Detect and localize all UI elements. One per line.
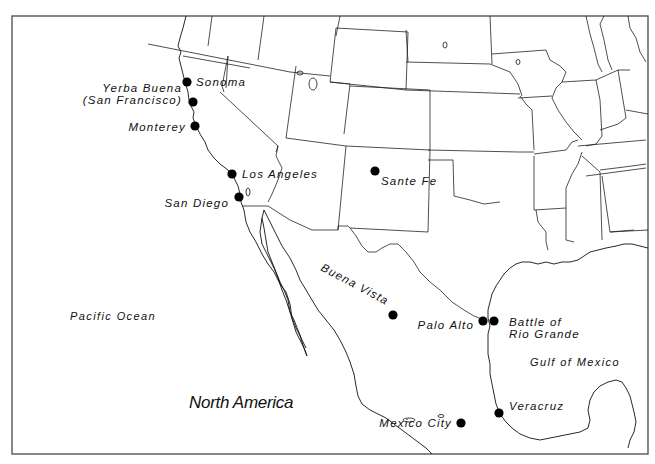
city-marker-san-diego: [234, 192, 243, 201]
city-label-san-diego: San Diego: [164, 197, 229, 209]
city-label-battle-of: Battle of: [509, 316, 563, 328]
city-marker-palo-alto: [478, 316, 487, 325]
city-label-palo-alto: Palo Alto: [418, 319, 474, 331]
city-label-sonoma: Sonoma: [196, 76, 246, 88]
historical-map: SonomaYerba Buena(San Francisco)Monterey…: [0, 0, 655, 464]
water-label-pacific-ocean: Pacific Ocean: [70, 310, 156, 322]
city-marker-buena-vista: [388, 310, 397, 319]
city-label-veracruz: Veracruz: [509, 400, 564, 412]
city-marker-sonoma: [182, 77, 191, 86]
water-label-gulf-of-mexico: Gulf of Mexico: [530, 356, 620, 368]
city-label-sante-fe: Sante Fe: [381, 175, 437, 187]
city-marker-yerba-buena: [188, 97, 197, 106]
region-label: North America: [189, 393, 293, 412]
city-marker-monterey: [190, 121, 199, 130]
city-label-yerba-buena: Yerba Buena: [102, 82, 182, 94]
city-marker-sante-fe: [370, 166, 379, 175]
city-label-mexico-city: Mexico City: [379, 417, 452, 429]
city-marker-veracruz: [494, 408, 503, 417]
city-marker-los-angeles: [227, 169, 236, 178]
city-marker-battle-of: [489, 316, 498, 325]
city-label-line2-yerba-buena: (San Francisco): [83, 94, 182, 106]
city-marker-mexico-city: [456, 418, 465, 427]
city-label-los-angeles: Los Angeles: [242, 168, 318, 180]
city-label-line2-battle-of: Rio Grande: [509, 328, 580, 340]
city-label-monterey: Monterey: [128, 121, 186, 133]
